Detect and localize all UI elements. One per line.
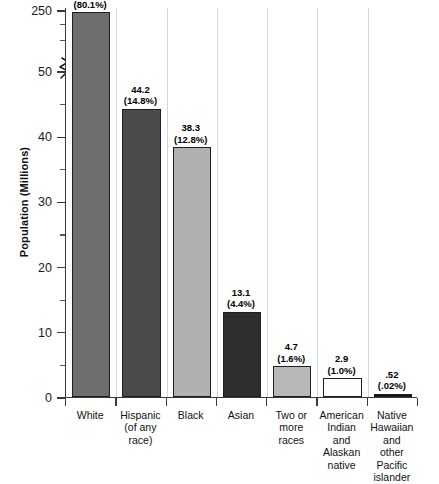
- category-gridline: [116, 8, 117, 397]
- category-gridline: [317, 8, 318, 397]
- bar-value-number: .52: [347, 369, 437, 381]
- bar-native-hawaiian-pacific-islander[interactable]: [374, 394, 412, 397]
- bar-black[interactable]: [173, 147, 211, 397]
- x-category-label-line: native: [314, 459, 368, 471]
- bar-value-label-asian: 13.1(4.4%): [196, 287, 286, 310]
- x-category-label-black[interactable]: Black: [164, 409, 218, 421]
- x-category-label-line: (of any race): [113, 421, 167, 446]
- category-gridline: [368, 8, 369, 397]
- x-category-label-two-or-more-races[interactable]: Two ormoreraces: [264, 409, 318, 446]
- x-tick: [367, 398, 368, 406]
- y-tick-30: [57, 202, 65, 203]
- x-category-label-line: and: [365, 434, 419, 446]
- bar-value-percent: (.02%): [347, 380, 437, 392]
- x-category-label-line: other: [365, 446, 419, 458]
- bar-value-number: 13.1: [196, 287, 286, 299]
- bar-value-percent: (80.1%): [45, 0, 135, 10]
- x-category-label-line: Native: [365, 409, 419, 421]
- x-category-label-native-hawaiian-pacific-islander[interactable]: NativeHawaiianandotherPacific islander: [365, 409, 419, 483]
- x-category-label-line: Hispanic: [113, 409, 167, 421]
- x-category-label-line: Indian: [314, 421, 368, 433]
- plot-area: [65, 8, 417, 398]
- bar-value-label-black: 38.3(12.8%): [146, 122, 236, 145]
- y-tick-0: [57, 397, 65, 398]
- bar-value-number: 38.3: [146, 122, 236, 134]
- x-category-label-line: more: [264, 421, 318, 433]
- x-category-label-asian[interactable]: Asian: [214, 409, 268, 421]
- category-gridline: [217, 8, 218, 397]
- x-category-label-line: Pacific islander: [365, 459, 419, 484]
- x-category-label-line: Black: [164, 409, 218, 421]
- x-category-label-line: Two or: [264, 409, 318, 421]
- y-tick-label-20: 20: [0, 261, 52, 275]
- x-category-label-line: Alaskan: [314, 446, 368, 458]
- bar-white[interactable]: [72, 12, 110, 397]
- y-tick-label-30: 30: [0, 195, 52, 209]
- x-category-label-line: Asian: [214, 409, 268, 421]
- x-tick: [115, 398, 116, 406]
- bar-value-percent: (12.8%): [146, 134, 236, 146]
- y-tick-label-50: 50: [0, 65, 52, 79]
- y-tick-label-40: 40: [0, 130, 52, 144]
- x-tick: [417, 398, 418, 406]
- x-category-label-line: and: [314, 434, 368, 446]
- y-tick-40: [57, 137, 65, 138]
- x-tick: [266, 398, 267, 406]
- y-tick-50: [57, 71, 65, 72]
- bar-value-percent: (4.4%): [196, 298, 286, 310]
- bar-hispanic[interactable]: [122, 109, 160, 397]
- bar-value-number: 2.9: [297, 353, 387, 365]
- x-category-label-hispanic[interactable]: Hispanic(of any race): [113, 409, 167, 446]
- y-tick-label-0: 0: [0, 391, 52, 405]
- x-category-label-line: White: [63, 409, 117, 421]
- bar-value-percent: (14.8%): [95, 95, 185, 107]
- y-tick-label-10: 10: [0, 326, 52, 340]
- x-tick: [166, 398, 167, 406]
- bar-value-number: 4.7: [246, 341, 336, 353]
- x-tick: [316, 398, 317, 406]
- x-tick: [65, 398, 66, 406]
- x-category-label-american-indian-alaskan-native[interactable]: AmericanIndianandAlaskannative: [314, 409, 368, 471]
- y-tick-10: [57, 332, 65, 333]
- x-category-label-line: Hawaiian: [365, 421, 419, 433]
- x-category-label-line: American: [314, 409, 368, 421]
- category-gridline: [167, 8, 168, 397]
- bar-value-number: 44.2: [95, 84, 185, 96]
- x-tick: [216, 398, 217, 406]
- category-gridline: [267, 8, 268, 397]
- x-category-label-white[interactable]: White: [63, 409, 117, 421]
- bar-value-label-white: 239.9(80.1%): [45, 0, 135, 10]
- bar-value-label-hispanic: 44.2(14.8%): [95, 84, 185, 107]
- population-by-race-bar-chart: Population (Millions) 01020304050250 Whi…: [0, 0, 439, 484]
- bar-value-label-native-hawaiian-pacific-islander: .52(.02%): [347, 369, 437, 392]
- x-category-label-line: races: [264, 434, 318, 446]
- y-tick-20: [57, 267, 65, 268]
- y-tick-250: [57, 10, 65, 11]
